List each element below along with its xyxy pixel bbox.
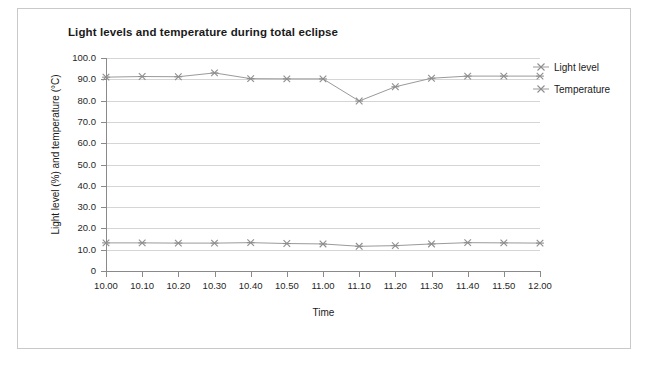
chart-legend: Light level Temperature bbox=[531, 57, 627, 101]
series-light-level bbox=[102, 70, 544, 105]
legend-label-temperature: Temperature bbox=[551, 84, 610, 95]
data-point-marker bbox=[428, 241, 436, 248]
legend-item-temperature[interactable]: Temperature bbox=[531, 79, 627, 99]
chart-figure: Light levels and temperature during tota… bbox=[17, 8, 631, 349]
data-point-marker bbox=[211, 240, 219, 247]
data-point-marker bbox=[138, 73, 146, 80]
data-point-marker bbox=[500, 73, 508, 80]
asterisk-marker-icon bbox=[531, 60, 551, 74]
data-point-marker bbox=[283, 76, 291, 83]
data-point-marker bbox=[319, 241, 327, 248]
series-line bbox=[106, 73, 540, 101]
data-point-marker bbox=[211, 70, 219, 77]
data-point-marker bbox=[102, 74, 110, 81]
data-point-marker bbox=[174, 73, 182, 80]
data-point-marker bbox=[247, 239, 255, 246]
legend-item-light-level[interactable]: Light level bbox=[531, 57, 627, 77]
data-point-marker bbox=[283, 240, 291, 247]
data-point-marker bbox=[174, 240, 182, 247]
data-point-marker bbox=[391, 83, 399, 90]
data-point-marker bbox=[500, 240, 508, 247]
data-point-marker bbox=[138, 240, 146, 247]
asterisk-marker-icon bbox=[531, 82, 551, 96]
data-point-marker bbox=[355, 243, 363, 250]
data-point-marker bbox=[464, 239, 472, 246]
data-point-marker bbox=[355, 98, 363, 105]
data-point-marker bbox=[428, 75, 436, 82]
data-point-marker bbox=[536, 240, 544, 247]
data-point-marker bbox=[464, 73, 472, 80]
series-temperature bbox=[102, 239, 544, 249]
data-point-marker bbox=[102, 240, 110, 247]
data-point-marker bbox=[247, 75, 255, 82]
data-point-marker bbox=[319, 76, 327, 83]
legend-label-light-level: Light level bbox=[551, 62, 599, 73]
data-point-marker bbox=[391, 242, 399, 249]
